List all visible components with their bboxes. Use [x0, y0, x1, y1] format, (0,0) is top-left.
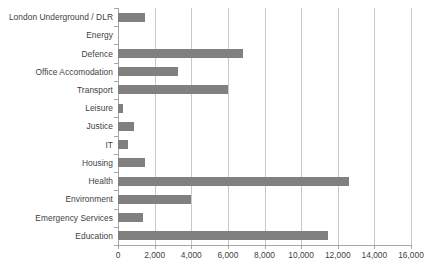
category-label: Defence: [0, 44, 113, 62]
bar: [118, 158, 145, 167]
bar: [118, 49, 243, 58]
bar: [118, 67, 178, 76]
category-label: Justice: [0, 117, 113, 135]
value-tick: [374, 245, 375, 249]
bar-row: [118, 190, 411, 208]
bar-row: [118, 208, 411, 226]
bar-rows: [118, 8, 411, 245]
category-label: Education: [0, 227, 113, 245]
plot-area: [118, 8, 411, 245]
bar: [118, 140, 128, 149]
value-axis-tickmarks: [118, 245, 411, 249]
bar-row: [118, 26, 411, 44]
value-tick: [301, 245, 302, 249]
category-label: Office Accomodation: [0, 63, 113, 81]
bar: [118, 122, 134, 131]
value-axis-labels: 02,0004,0006,0008,00010,00012,00014,0001…: [0, 250, 412, 264]
value-tick: [265, 245, 266, 249]
value-tick-label: 16,000: [398, 250, 424, 260]
bar-row: [118, 154, 411, 172]
value-tick-label: 8,000: [254, 250, 275, 260]
bar: [118, 85, 228, 94]
bar-row: [118, 81, 411, 99]
bar: [118, 213, 143, 222]
value-tick: [155, 245, 156, 249]
category-label: IT: [0, 136, 113, 154]
value-tick-label: 10,000: [288, 250, 314, 260]
bar-row: [118, 227, 411, 245]
category-label: Health: [0, 172, 113, 190]
category-label: Transport: [0, 81, 113, 99]
category-label: Housing: [0, 154, 113, 172]
bar: [118, 13, 145, 22]
category-label: Energy: [0, 26, 113, 44]
bar-row: [118, 172, 411, 190]
value-tick: [411, 245, 412, 249]
value-tick-label: 6,000: [217, 250, 238, 260]
value-tick: [338, 245, 339, 249]
value-tick-label: 12,000: [325, 250, 351, 260]
value-tick: [191, 245, 192, 249]
bar-row: [118, 8, 411, 26]
bar-row: [118, 44, 411, 62]
bar: [118, 177, 349, 186]
category-label: Environment: [0, 190, 113, 208]
gridline-16000: [411, 8, 412, 245]
bar-row: [118, 99, 411, 117]
value-tick-label: 4,000: [181, 250, 202, 260]
value-tick-label: 14,000: [362, 250, 388, 260]
category-label: London Underground / DLR: [0, 8, 113, 26]
category-label: Emergency Services: [0, 208, 113, 226]
category-label: Leisure: [0, 99, 113, 117]
bar: [118, 104, 123, 113]
bar-row: [118, 117, 411, 135]
category-axis-labels: London Underground / DLREnergyDefenceOff…: [0, 8, 113, 245]
bar-row: [118, 136, 411, 154]
bar: [118, 231, 328, 240]
value-tick: [118, 245, 119, 249]
bar-row: [118, 63, 411, 81]
value-tick-label: 0: [116, 250, 121, 260]
value-tick: [228, 245, 229, 249]
bar: [118, 195, 191, 204]
value-tick-label: 2,000: [144, 250, 165, 260]
